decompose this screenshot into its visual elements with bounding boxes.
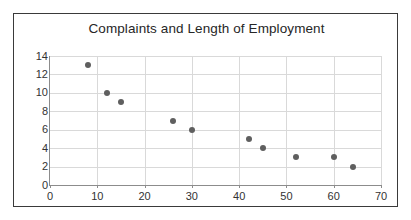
x-axis-tick-label: 30 [177,191,207,202]
x-axis-tick-label: 60 [319,191,349,202]
x-axis-line [49,185,382,186]
gridline-vertical [97,56,98,185]
x-axis-tick-label: 20 [130,191,160,202]
gridline-horizontal [50,56,381,57]
gridline-vertical [239,56,240,185]
y-axis-tick-label: 0 [20,180,48,191]
y-axis-tick-label: 4 [20,143,48,154]
y-axis-tick-label: 2 [20,161,48,172]
gridline-horizontal [50,111,381,112]
scatter-point [331,154,337,160]
x-axis-tick-label: 0 [35,191,65,202]
gridline-vertical [286,56,287,185]
x-axis-tick-label: 40 [224,191,254,202]
x-axis-tick-label: 10 [82,191,112,202]
gridline-vertical [192,56,193,185]
gridline-horizontal [50,130,381,131]
y-axis-tick-label: 10 [20,87,48,98]
scatter-point [104,90,110,96]
y-axis-tick-label: 6 [20,124,48,135]
gridline-horizontal [50,74,381,75]
scatter-point [189,127,195,133]
scatter-point [170,118,176,124]
y-axis-tick-label: 12 [20,69,48,80]
chart-figure: Complaints and Length of Employment 0246… [13,13,398,207]
y-axis-line [49,56,50,186]
gridline-vertical [334,56,335,185]
y-axis-tick-label: 14 [20,51,48,62]
gridline-horizontal [50,167,381,168]
scatter-point [293,154,299,160]
gridline-vertical [381,56,382,185]
gridline-horizontal [50,93,381,94]
scatter-point [85,62,91,68]
x-axis-tick-label: 70 [366,191,396,202]
x-axis-tick-label: 50 [271,191,301,202]
scatter-point [246,136,252,142]
scatter-point [118,99,124,105]
plot-area: 02468101214 010203040506070 [50,56,381,185]
gridline-horizontal [50,148,381,149]
gridline-vertical [145,56,146,185]
y-axis-tick-label: 8 [20,106,48,117]
chart-title: Complaints and Length of Employment [14,21,399,36]
scatter-point [260,145,266,151]
scatter-point [350,164,356,170]
